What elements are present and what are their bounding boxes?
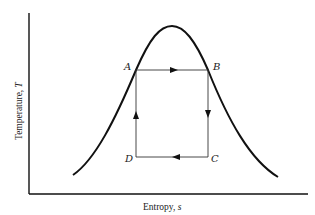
x-axis-title-main: Entropy,: [143, 202, 178, 212]
point-label-d: D: [124, 153, 133, 164]
y-axis-title-main: Temperature,: [14, 87, 24, 140]
y-axis-title: Temperature, T: [14, 81, 24, 140]
y-axis-title-var: T: [14, 81, 24, 87]
carnot-cycle: [136, 70, 208, 157]
point-label-c: C: [211, 153, 219, 164]
x-axis-title-var: s: [178, 202, 182, 212]
arrow-left-icon: [172, 154, 180, 160]
arrow-down-icon: [205, 110, 211, 118]
x-axis-title: Entropy, s: [143, 202, 182, 212]
saturation-dome-curve: [73, 26, 278, 177]
arrow-right-icon: [170, 67, 178, 73]
ts-diagram: A B C D Entropy, s Temperature, T: [0, 0, 315, 215]
arrow-up-icon: [133, 111, 139, 119]
point-label-b: B: [212, 61, 220, 72]
point-label-a: A: [123, 61, 131, 72]
